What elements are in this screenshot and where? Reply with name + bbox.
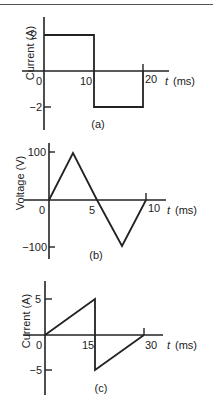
panel-label: (b) [89,249,102,261]
y-tick-neg: −100 [22,241,47,253]
panel-label: (c) [95,382,108,394]
x-tick-1: 5 [89,204,95,216]
x-tick-2: 30 [145,339,157,351]
x-axis-unit: (ms) [175,339,197,351]
y-axis-label: Voltage (V) [14,156,26,210]
x-axis-var: t [165,75,169,87]
x-tick-1: 10 [80,75,92,87]
y-axis-label: Current (A) [20,294,32,348]
x-tick-1: 15 [82,339,94,351]
x-tick-2: 10 [148,202,160,214]
y-axis-label: Current (A) [24,26,36,80]
panel-label: (a) [91,118,104,130]
y-tick-neg: −2 [29,101,42,113]
y-tick-pos: 100 [28,146,46,158]
y-tick-pos: 5 [35,293,41,305]
figure: 2 −2 0 10 20 t (ms) (a) Current (A) 100 … [0,0,213,408]
x-axis-var: t [167,204,171,216]
x-tick-2: 20 [145,73,157,85]
x-tick-0: 0 [36,339,42,351]
x-axis-var: t [167,339,171,351]
x-tick-0: 0 [36,75,42,87]
x-tick-0: 0 [39,204,45,216]
x-axis-unit: (ms) [173,75,195,87]
chart-c [23,281,163,395]
x-axis-unit: (ms) [175,204,197,216]
y-tick-neg: −5 [29,364,42,376]
